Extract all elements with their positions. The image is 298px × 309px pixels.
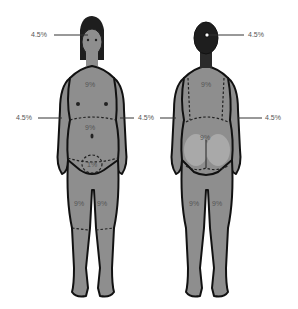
front-genitals-label: 1% xyxy=(87,161,97,169)
front-left-leg-label: 9% xyxy=(74,200,84,208)
back-head-label: 4.5% xyxy=(248,31,264,39)
front-right-arm-label: 4.5% xyxy=(138,114,154,122)
back-right-arm-label: 4.5% xyxy=(265,114,281,122)
front-head-label: 4.5% xyxy=(31,31,47,39)
front-chest-label: 9% xyxy=(85,81,95,89)
front-left-arm-label: 4.5% xyxy=(16,114,32,122)
front-abdomen-label: 9% xyxy=(85,124,95,132)
front-right-leg-label: 9% xyxy=(97,200,107,208)
rule-of-nines-diagram: 4.5% 4.5% 4.5% 4.5% 4.5% 9% 9% 1% 9% 9% … xyxy=(0,0,298,309)
back-head-marker xyxy=(205,33,209,37)
front-figure xyxy=(58,16,127,297)
body-figures-illustration xyxy=(0,0,298,309)
back-lower-back-label: 9% xyxy=(200,134,210,142)
back-right-leg-label: 9% xyxy=(212,200,222,208)
back-left-leg-label: 9% xyxy=(189,200,199,208)
back-upper-back-label: 9% xyxy=(201,81,211,89)
